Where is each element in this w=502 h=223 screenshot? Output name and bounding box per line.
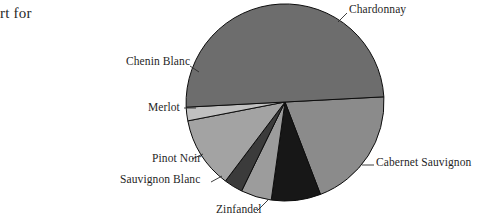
pie-label-chenin-blanc: Chenin Blanc bbox=[126, 55, 190, 67]
pie-chart-figure: rt for Chardonnay Cabernet Sauvignon Zin… bbox=[0, 0, 502, 223]
pie-label-chardonnay: Chardonnay bbox=[349, 3, 406, 15]
leader-line-sauvignon-blanc bbox=[211, 176, 222, 182]
pie-slice-chardonnay bbox=[186, 4, 384, 107]
pie-label-sauvignon-blanc: Sauvignon Blanc bbox=[120, 173, 200, 185]
pie-label-cabernet-sauvignon: Cabernet Sauvignon bbox=[376, 156, 471, 168]
pie-slices-group bbox=[186, 4, 384, 201]
pie-label-pinot-noir: Pinot Noir bbox=[152, 152, 201, 164]
pie-chart-graphic bbox=[0, 0, 502, 223]
leader-line-chardonnay bbox=[338, 13, 347, 22]
pie-label-merlot: Merlot bbox=[148, 101, 180, 113]
pie-label-zinfandel: Zinfandel bbox=[216, 203, 262, 215]
